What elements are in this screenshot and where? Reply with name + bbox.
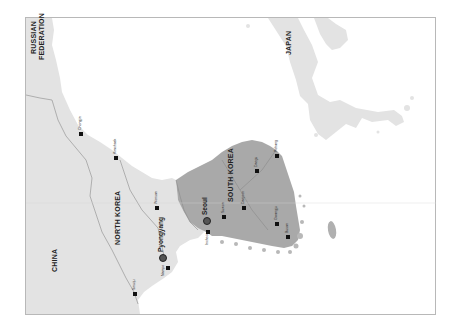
city-marker-chongjin[interactable] (79, 132, 83, 136)
jeju-island (326, 220, 337, 239)
label-russia-federation: FEDERATION (38, 13, 45, 60)
city-label-incheon: Incheon (206, 233, 210, 245)
label-south-korea: SOUTH KOREA (227, 148, 234, 202)
city-label-suwon: Suwon (222, 202, 226, 213)
city-label-daegu: Daegu (255, 157, 259, 167)
city-label-gwangju: Gwangju (275, 206, 279, 220)
label-japan: JAPAN (285, 31, 292, 55)
capital-label-pyongyang: Pyongyang (158, 217, 165, 252)
japan-north-land (314, 18, 348, 50)
city-marker-pohang[interactable] (275, 154, 279, 158)
city-label-kimchaek: Kimchaek (114, 139, 118, 154)
city-marker-daegu[interactable] (255, 169, 259, 173)
city-label-busan: Busan (286, 223, 290, 233)
city-marker-daejeon[interactable] (242, 206, 246, 210)
label-north-korea: NORTH KOREA (114, 191, 121, 245)
label-russia: RUSSIAN (30, 21, 37, 54)
city-marker-nampo[interactable] (166, 266, 170, 270)
capital-marker-pyongyang[interactable] (159, 254, 167, 262)
city-label-chongjin: Chongjin (79, 116, 83, 130)
label-china: CHINA (51, 249, 58, 272)
city-marker-gwangju[interactable] (275, 222, 279, 226)
city-label-wonsan: Wonsan (155, 191, 159, 204)
city-marker-wonsan[interactable] (155, 206, 159, 210)
city-label-pohang: Pohang (275, 140, 279, 152)
city-marker-busan[interactable] (286, 235, 290, 239)
city-marker-suwon[interactable] (222, 215, 226, 219)
capital-label-seoul: Seoul (202, 197, 209, 215)
city-label-daejeon: Daejeon (242, 191, 246, 204)
city-label-nampo: Nampo (162, 265, 166, 276)
city-marker-kimchaek[interactable] (114, 156, 118, 160)
city-marker-sinuiju[interactable] (133, 292, 137, 296)
city-label-sinuiju: Sinuiju (133, 279, 137, 290)
capital-marker-seoul[interactable] (203, 217, 211, 225)
